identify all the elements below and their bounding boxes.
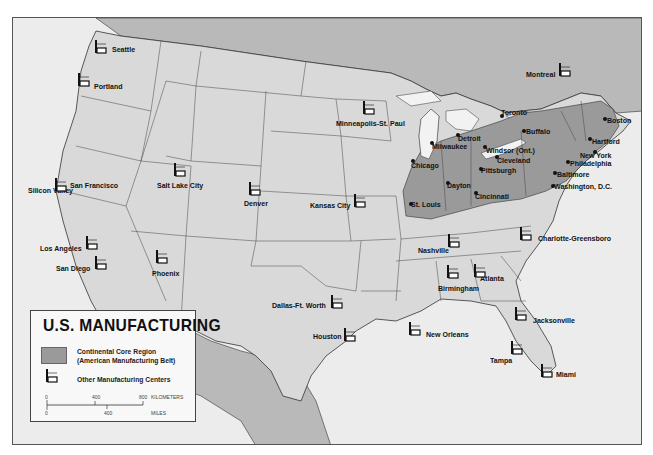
factory-icon (514, 307, 528, 321)
label-miami: Miami (556, 370, 576, 379)
scale-bar (45, 399, 145, 411)
scale-mi-unit: MILES (151, 410, 166, 416)
city-dot (474, 191, 478, 195)
city-dot (446, 181, 450, 185)
label-baltimore: Baltimore (557, 170, 589, 179)
city-dot (430, 141, 434, 145)
label-denver: Denver (244, 199, 268, 208)
city-dot (593, 150, 597, 154)
factory-icon (510, 341, 524, 355)
label-san-francisco: San Francisco (70, 181, 118, 190)
city-dot (411, 159, 415, 163)
label-windsor: Windsor (Ont.) (486, 146, 535, 155)
scale-mi-0: 0 (45, 410, 48, 416)
factory-icon (446, 265, 460, 279)
scale-mi-400: 400 (104, 410, 112, 416)
factory-icon (94, 40, 108, 54)
label-pittsburgh: Pittsburgh (481, 166, 516, 175)
factory-icon (54, 178, 68, 192)
factory-icon (173, 163, 187, 177)
factory-icon (45, 369, 59, 383)
label-toronto: Toronto (501, 108, 527, 117)
factory-icon (77, 73, 91, 87)
label-washington-dc: Washington, D.C. (554, 182, 612, 191)
city-dot (483, 145, 487, 149)
factory-icon (330, 295, 344, 309)
city-dot (479, 167, 483, 171)
factory-icon (155, 250, 169, 264)
label-boston: Boston (607, 116, 631, 125)
label-cleveland: Cleveland (497, 156, 530, 165)
label-cincinnati: Cincinnati (475, 192, 509, 201)
label-houston: Houston (313, 332, 342, 341)
factory-icon (343, 328, 357, 342)
label-chicago: Chicago (411, 161, 439, 170)
city-dot (566, 160, 570, 164)
scale-km-800: 800 (139, 394, 147, 400)
label-los-angeles: Los Angeles (40, 244, 82, 253)
scale-km-400: 400 (92, 394, 100, 400)
factory-icon (353, 194, 367, 208)
label-tampa: Tampa (490, 356, 512, 365)
label-dallas-ft-worth: Dallas-Ft. Worth (272, 301, 326, 310)
scale-km-0: 0 (45, 394, 48, 400)
label-minneapolis: Minneapolis-St. Paul (336, 119, 405, 128)
factory-icon (558, 63, 572, 77)
label-st-louis: St. Louis (411, 200, 441, 209)
label-birmingham: Birmingham (438, 284, 479, 293)
label-montreal: Montreal (526, 70, 555, 79)
factory-icon (519, 227, 533, 241)
label-portland: Portland (94, 82, 123, 91)
label-salt-lake-city: Salt Lake City (157, 181, 203, 190)
core-region-swatch (41, 347, 67, 364)
label-san-diego: San Diego (56, 264, 90, 273)
city-dot (588, 137, 592, 141)
city-dot (603, 117, 607, 121)
legend-core-line1: Continental Core Region (77, 347, 156, 356)
legend-other-centers: Other Manufacturing Centers (77, 375, 170, 384)
city-dot (553, 171, 557, 175)
label-dayton: Dayton (447, 181, 471, 190)
factory-icon (248, 182, 262, 196)
factory-icon (94, 256, 108, 270)
map-legend: U.S. MANUFACTURING Continental Core Regi… (30, 310, 196, 422)
label-milwaukee: Milwaukee (432, 142, 467, 151)
legend-core-line2: (American Manufacturing Belt) (77, 356, 175, 365)
factory-icon (447, 234, 461, 248)
label-jacksonville: Jacksonville (533, 316, 575, 325)
factory-icon (408, 322, 422, 336)
city-dot (522, 129, 526, 133)
label-buffalo: Buffalo (526, 127, 550, 136)
label-hartford: Hartford (592, 137, 620, 146)
factory-icon (540, 364, 554, 378)
city-dot (500, 114, 504, 118)
legend-title: U.S. MANUFACTURING (43, 316, 221, 336)
label-phoenix: Phoenix (152, 269, 179, 278)
label-new-orleans: New Orleans (426, 330, 469, 339)
city-dot (551, 184, 555, 188)
city-dot (456, 133, 460, 137)
label-charlotte-greensboro: Charlotte-Greensboro (538, 234, 611, 243)
label-kansas-city: Kansas City (310, 201, 350, 210)
label-philadelphia: Philadelphia (570, 159, 611, 168)
factory-icon (473, 264, 487, 278)
factory-icon (362, 101, 376, 115)
city-dot (409, 202, 413, 206)
factory-icon (85, 236, 99, 250)
label-seattle: Seattle (112, 45, 135, 54)
city-dot (495, 155, 499, 159)
scale-km-unit: KILOMETERS (151, 394, 183, 400)
label-nashville: Nashville (418, 246, 449, 255)
